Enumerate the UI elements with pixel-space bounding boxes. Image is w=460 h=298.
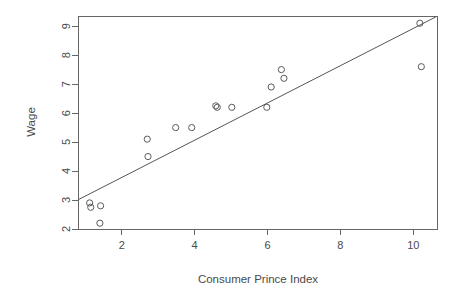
plot-box-border xyxy=(78,16,437,229)
data-point xyxy=(229,104,235,110)
x-tick-label: 4 xyxy=(192,239,198,251)
data-point xyxy=(213,103,219,109)
y-tick-label: 7 xyxy=(60,81,72,87)
chart-figure: 246810 23456789 Consumer Prince Index Wa… xyxy=(0,0,460,298)
data-point xyxy=(87,200,93,206)
x-tick-label: 6 xyxy=(264,239,270,251)
y-axis-tick-labels: 23456789 xyxy=(60,23,72,232)
data-point xyxy=(173,124,179,130)
x-tick-label: 10 xyxy=(407,239,419,251)
y-tick-label: 2 xyxy=(60,226,72,232)
data-point xyxy=(214,104,220,110)
regression-line xyxy=(79,17,436,200)
y-axis-ticks xyxy=(72,26,78,229)
data-point xyxy=(189,124,195,130)
data-point xyxy=(97,220,103,226)
data-point xyxy=(278,67,284,73)
data-point xyxy=(145,153,151,159)
regression-line-segment xyxy=(79,17,436,200)
data-point xyxy=(88,204,94,210)
y-tick-label: 5 xyxy=(60,139,72,145)
y-axis-title: Wage xyxy=(25,107,37,137)
x-axis-title: Consumer Prince Index xyxy=(198,273,318,285)
x-tick-label: 2 xyxy=(119,239,125,251)
y-tick-label: 6 xyxy=(60,110,72,116)
y-tick-label: 4 xyxy=(60,168,72,174)
plot-frame xyxy=(78,16,437,229)
scatter-plot-canvas: 246810 23456789 Consumer Prince Index Wa… xyxy=(0,0,460,298)
data-point xyxy=(281,75,287,81)
y-tick-label: 8 xyxy=(60,52,72,58)
data-point xyxy=(98,203,104,209)
data-points xyxy=(87,20,425,226)
x-axis-ticks xyxy=(122,229,414,235)
x-axis-tick-labels: 246810 xyxy=(119,239,420,251)
x-tick-label: 8 xyxy=(337,239,343,251)
data-point xyxy=(268,84,274,90)
data-point xyxy=(418,64,424,70)
data-point xyxy=(264,104,270,110)
data-point xyxy=(144,136,150,142)
y-tick-label: 3 xyxy=(60,197,72,203)
y-tick-label: 9 xyxy=(60,23,72,29)
